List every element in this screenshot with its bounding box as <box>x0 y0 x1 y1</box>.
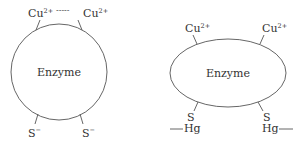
right-hg-left-label: Hg <box>184 122 201 135</box>
right-top-right-bond <box>260 35 264 44</box>
enzyme-diagram: Enzyme Cu2+ ----- Cu2+ S− S− Enzyme Cu2+… <box>0 0 304 142</box>
right-cu-right-label: Cu2+ <box>262 22 287 35</box>
right-cu-left-label: Cu2+ <box>185 22 210 35</box>
right-hg-right-label: Hg <box>262 122 279 135</box>
right-top-left-bond <box>193 35 197 44</box>
right-bottom-right-bond <box>258 102 263 111</box>
left-enzyme-label: Enzyme <box>37 66 81 79</box>
left-bottom-right-bond <box>80 114 83 124</box>
left-cu-link: ----- <box>56 6 70 15</box>
left-s-left-label: S− <box>28 126 41 140</box>
left-cu-right-label: Cu2+ <box>83 7 108 20</box>
right-enzyme-label: Enzyme <box>206 67 250 80</box>
left-cu-left-label: Cu2+ <box>28 7 53 20</box>
left-bottom-left-bond <box>35 114 38 124</box>
right-bottom-left-bond <box>194 102 198 111</box>
left-enzyme-group: Enzyme Cu2+ ----- Cu2+ S− S− <box>11 6 108 140</box>
left-s-right-label: S− <box>82 126 95 140</box>
right-enzyme-group: Enzyme Cu2+ Cu2+ S Hg S Hg <box>170 22 293 135</box>
